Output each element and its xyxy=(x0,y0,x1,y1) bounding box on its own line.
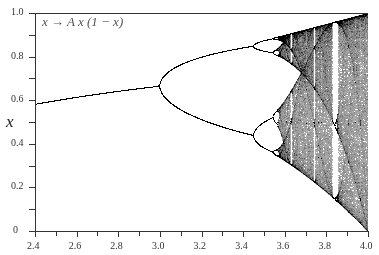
x-tick-label: 2.6 xyxy=(69,240,82,251)
x-tick-label: 3.0 xyxy=(152,240,165,251)
x-tick-label: 3.2 xyxy=(194,240,207,251)
y-tick-label: 0.2 xyxy=(11,180,24,191)
map-formula: x → A x (1 − x) xyxy=(42,14,123,30)
x-tick-label: 3.8 xyxy=(318,240,331,251)
x-tick-label: 3.4 xyxy=(235,240,248,251)
y-tick-label: 0 xyxy=(13,224,18,235)
y-axis-label: x xyxy=(6,112,14,132)
x-tick-label: 4.0 xyxy=(360,240,373,251)
y-tick-label: 1.0 xyxy=(11,6,24,17)
x-tick-label: 2.4 xyxy=(27,240,40,251)
x-tick-label: 2.8 xyxy=(110,240,123,251)
bifurcation-plot xyxy=(0,0,379,255)
y-tick-label: 0.4 xyxy=(11,137,24,148)
y-tick-label: 0.8 xyxy=(11,50,24,61)
y-tick-label: 0.6 xyxy=(11,93,24,104)
x-tick-label: 3.6 xyxy=(277,240,290,251)
